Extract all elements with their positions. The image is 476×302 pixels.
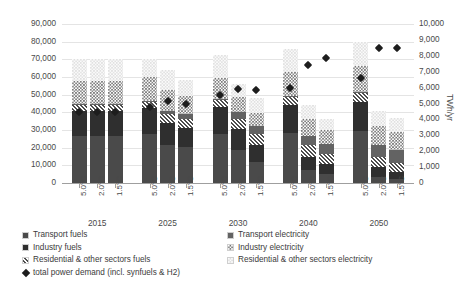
bar-2050-2.0C[interactable] — [371, 24, 386, 183]
segment-transport_elec — [301, 136, 316, 145]
x-tick-text: 2.0°C — [238, 176, 247, 196]
segment-residential_elec — [213, 55, 228, 78]
y-axis-right-tick: 5,000 — [419, 100, 467, 108]
legend-label: Residential & other sectors fuels — [33, 256, 150, 264]
bar-2030-1.5C[interactable] — [249, 24, 264, 183]
segment-residential_elec — [371, 111, 386, 126]
segment-residential_elec — [283, 49, 298, 72]
x-group-2030: 5.0°C2.0°C1.5°C2030 — [203, 184, 273, 230]
segment-industry_fuels — [319, 164, 334, 175]
segment-transport_elec — [249, 126, 264, 134]
segment-residential_elec — [90, 59, 105, 80]
segment-residential_elec — [72, 59, 87, 80]
x-group-2040: 5.0°C2.0°C1.5°C2040 — [273, 184, 343, 230]
x-group-label: 2030 — [203, 218, 273, 228]
segment-residential_fuels — [353, 93, 368, 102]
x-group-label: 2015 — [62, 218, 132, 228]
segment-industry_elec — [231, 97, 246, 112]
y-axis-left-tick: 0 — [8, 179, 56, 187]
y-axis-right-tick: 7,000 — [419, 68, 467, 76]
segment-industry_fuels — [301, 157, 316, 170]
total-power-demand-marker — [375, 43, 383, 51]
bar-2030-5.0C[interactable] — [213, 24, 228, 183]
y-axis-right-tick: 8,000 — [419, 52, 467, 60]
legend-label: Residential & other sectors electricity — [238, 256, 372, 264]
y-axis-right-title: TWh/yr — [445, 94, 455, 121]
bar-2025-1.5C[interactable] — [178, 24, 193, 183]
segment-residential_elec — [389, 118, 404, 132]
bar-group-2025 — [132, 24, 202, 183]
segment-transport_elec — [371, 145, 386, 156]
bar-2015-2.0C[interactable] — [90, 24, 105, 183]
bar-2050-1.5C[interactable] — [389, 24, 404, 183]
total-power-demand-marker — [322, 54, 330, 62]
y-axis-right-tick: 4,000 — [419, 115, 467, 123]
y-axis-left-tick: 70,000 — [8, 55, 56, 63]
segment-industry_fuels — [249, 145, 264, 162]
segment-transport_elec — [389, 150, 404, 162]
y-axis-left-tick: 90,000 — [8, 20, 56, 28]
bar-2030-2.0C[interactable] — [231, 24, 246, 183]
legend-item-transport-elec: Transport electricity — [227, 231, 467, 239]
segment-residential_elec — [178, 80, 193, 96]
y-axis-left-tick: 40,000 — [8, 108, 56, 116]
segment-industry_fuels — [231, 129, 246, 150]
segment-residential_fuels — [160, 114, 175, 123]
segment-industry_fuels — [160, 123, 175, 145]
legend-label: Transport electricity — [238, 231, 309, 239]
legend-swatch-icon — [227, 244, 234, 251]
y-axis-right-tick: 10,000 — [419, 20, 467, 28]
chart-legend: Transport fuelsIndustry fuelsResidential… — [22, 231, 467, 277]
segment-residential_elec — [108, 59, 123, 80]
y-axis-right-tick: 9,000 — [419, 36, 467, 44]
bar-2025-5.0C[interactable] — [142, 24, 157, 183]
x-tick-text: 2.0°C — [97, 176, 106, 196]
segment-residential_fuels — [213, 100, 228, 107]
bar-2025-2.0C[interactable] — [160, 24, 175, 183]
bar-2040-5.0C[interactable] — [283, 24, 298, 183]
segment-residential_fuels — [371, 157, 386, 168]
x-group-2050: 5.0°C2.0°C1.5°C2050 — [344, 184, 414, 230]
segment-industry_elec — [301, 119, 316, 136]
y-axis-right-tick: 6,000 — [419, 84, 467, 92]
segment-residential_fuels — [319, 154, 334, 164]
segment-industry_elec — [108, 81, 123, 105]
bar-2040-1.5C[interactable] — [319, 24, 334, 183]
legend-swatch-icon — [22, 232, 29, 239]
y-axis-right-tick: 1,000 — [419, 163, 467, 171]
y-axis-right-tick: 3,000 — [419, 131, 467, 139]
segment-industry_fuels — [283, 105, 298, 132]
legend-column-electricity: Transport electricityIndustry electricit… — [227, 231, 467, 264]
x-group-label: 2040 — [273, 218, 343, 228]
x-tick-text: 5.0°C — [290, 176, 299, 196]
x-group-2025: 5.0°C2.0°C1.5°C2025 — [132, 184, 202, 230]
bar-2015-1.5C[interactable] — [108, 24, 123, 183]
segment-residential_fuels — [231, 119, 246, 130]
legend-item-residential-fuels: Residential & other sectors fuels — [22, 256, 227, 264]
legend-label: Industry fuels — [33, 244, 82, 252]
x-tick-text: 2.0°C — [168, 176, 177, 196]
x-tick-text: 2.0°C — [379, 176, 388, 196]
legend-item-transport-fuels: Transport fuels — [22, 231, 227, 239]
x-tick-text: 5.0°C — [150, 176, 159, 196]
legend-swatch-icon — [22, 244, 29, 251]
x-group-2015: 5.0°C2.0°C1.5°C2015 — [62, 184, 132, 230]
segment-industry_fuels — [213, 107, 228, 134]
segment-industry_elec — [371, 126, 386, 145]
bar-2050-5.0C[interactable] — [353, 24, 368, 183]
bar-2015-5.0C[interactable] — [72, 24, 87, 183]
segment-industry_elec — [72, 81, 87, 105]
legend-swatch-icon — [227, 257, 234, 264]
segment-residential_fuels — [389, 163, 404, 172]
bar-2040-2.0C[interactable] — [301, 24, 316, 183]
y-axis-left-tick: 20,000 — [8, 144, 56, 152]
segment-industry_fuels — [353, 102, 368, 131]
legend-label: Industry electricity — [238, 244, 304, 252]
segment-residential_fuels — [301, 145, 316, 156]
segment-residential_elec — [249, 98, 264, 113]
segment-transport_elec — [319, 144, 334, 154]
x-tick-text: 5.0°C — [361, 176, 370, 196]
diamond-marker-icon — [21, 269, 29, 277]
legend-item-total-power-demand: total power demand (incl. synfuels & H2) — [22, 269, 467, 277]
segment-industry_elec — [319, 130, 334, 144]
